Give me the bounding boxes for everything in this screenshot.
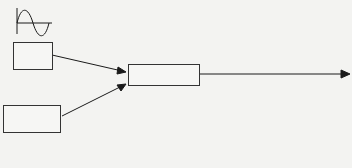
audio-to-modulator-arrow <box>52 55 122 71</box>
carrier-to-modulator-arrow <box>62 86 122 116</box>
axis-arrow-icon <box>341 70 350 78</box>
carrier-oscillator-block <box>3 105 61 133</box>
sine-wave-icon <box>17 8 52 36</box>
audio-signal-block <box>13 42 53 70</box>
modulator-block <box>128 64 200 86</box>
